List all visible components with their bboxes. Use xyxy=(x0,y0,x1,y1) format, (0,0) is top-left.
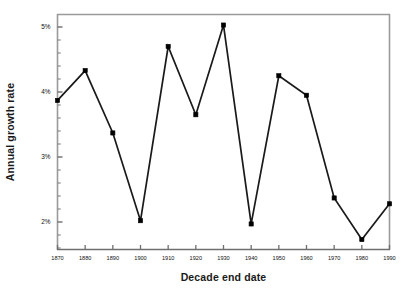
x-axis-tick-label: 1980 xyxy=(356,255,368,261)
data-point-marker xyxy=(360,237,364,241)
data-point-marker xyxy=(304,93,308,97)
data-point-marker xyxy=(166,44,170,48)
data-point-marker xyxy=(83,68,87,72)
x-axis-tick-label: 1920 xyxy=(190,255,202,261)
y-axis-tick-label: 4% xyxy=(41,88,51,95)
growth-rate-line-chart: 5%4%3%2% 1870188018901900191019201930194… xyxy=(0,0,409,291)
x-axis-tick-label: 1960 xyxy=(300,255,312,261)
x-axis-tick-label: 1880 xyxy=(79,255,91,261)
data-point-marker xyxy=(194,113,198,117)
data-point-marker xyxy=(55,98,59,102)
data-point-marker xyxy=(249,222,253,226)
y-axis-tick-label: 3% xyxy=(41,153,51,160)
chart-figure: 5%4%3%2% 1870188018901900191019201930194… xyxy=(0,0,409,291)
x-axis-tick-label: 1930 xyxy=(217,255,229,261)
data-point-marker xyxy=(277,74,281,78)
data-point-marker xyxy=(387,202,391,206)
x-axis-tick-label: 1890 xyxy=(107,255,119,261)
data-point-marker xyxy=(332,196,336,200)
x-axis-tick-label: 1910 xyxy=(162,255,174,261)
x-axis-tick-label: 1870 xyxy=(51,255,63,261)
x-axis-tick-label: 1950 xyxy=(273,255,285,261)
y-axis-tick-label: 5% xyxy=(41,23,51,30)
y-axis-title: Annual growth rate xyxy=(4,83,16,181)
x-axis-title: Decade end date xyxy=(181,271,267,283)
data-point-marker xyxy=(111,131,115,135)
x-axis-tick-label: 1900 xyxy=(134,255,146,261)
x-axis-tick-label: 1940 xyxy=(245,255,257,261)
chart-background xyxy=(0,0,409,291)
x-axis-tick-label: 1970 xyxy=(328,255,340,261)
x-axis-tick-label: 1990 xyxy=(383,255,395,261)
data-point-marker xyxy=(221,23,225,27)
y-axis-tick-label: 2% xyxy=(41,218,51,225)
data-point-marker xyxy=(138,219,142,223)
